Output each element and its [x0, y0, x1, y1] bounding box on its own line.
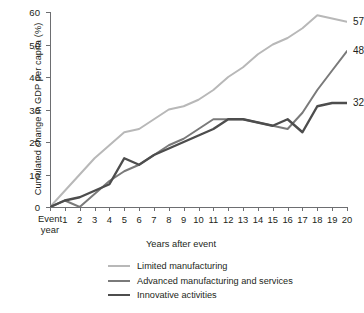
x-tick	[243, 207, 244, 211]
plot-area: 0102030405060 Eventyear12345678910111213…	[50, 12, 347, 207]
x-tick-label: 18	[312, 214, 322, 225]
y-tick-label: 40	[29, 72, 40, 83]
legend-swatch	[108, 294, 130, 296]
x-tick	[199, 207, 200, 211]
x-tick	[228, 207, 229, 211]
y-tick-label: 30	[29, 104, 40, 115]
x-tick-label: 12	[223, 214, 233, 225]
x-tick-label: 14	[253, 214, 263, 225]
legend-swatch	[108, 265, 130, 267]
x-tick	[332, 207, 333, 211]
x-tick	[124, 207, 125, 211]
x-tick-label: 7	[151, 214, 156, 225]
x-tick-label: 9	[181, 214, 186, 225]
x-tick	[347, 207, 348, 211]
x-tick	[184, 207, 185, 211]
series-end-value: 57	[353, 16, 364, 27]
y-tick-label: 60	[29, 7, 40, 18]
x-tick	[80, 207, 81, 211]
x-tick-label: 3	[92, 214, 97, 225]
x-tick	[288, 207, 289, 211]
legend-swatch	[108, 280, 130, 282]
x-tick	[65, 207, 66, 211]
chart-legend: Limited manufacturingAdvanced manufactur…	[108, 261, 293, 300]
x-tick	[258, 207, 259, 211]
x-tick-label: 1	[62, 214, 67, 225]
series-line	[50, 51, 347, 207]
legend-label: Advanced manufacturing and services	[137, 276, 293, 286]
legend-item[interactable]: Innovative activities	[108, 290, 293, 300]
x-tick-label: 11	[208, 214, 218, 225]
x-tick	[95, 207, 96, 211]
x-tick-label: 8	[166, 214, 171, 225]
series-end-value: 32	[353, 97, 364, 108]
x-tick	[302, 207, 303, 211]
legend-item[interactable]: Advanced manufacturing and services	[108, 276, 293, 286]
x-tick	[50, 207, 51, 211]
y-tick-label: 10	[29, 169, 40, 180]
legend-label: Limited manufacturing	[137, 261, 227, 271]
x-tick	[154, 207, 155, 211]
series-lines	[50, 12, 347, 207]
x-tick-label: 4	[107, 214, 112, 225]
x-tick	[109, 207, 110, 211]
series-end-value: 48	[353, 45, 364, 56]
x-tick-label: 13	[238, 214, 248, 225]
y-tick-label: 50	[29, 39, 40, 50]
y-tick-label: 0	[35, 202, 40, 213]
x-axis-title: Years after event	[0, 239, 362, 249]
x-tick-label: 2	[77, 214, 82, 225]
x-tick-label: 17	[297, 214, 307, 225]
series-line	[50, 103, 347, 207]
x-tick-label: 6	[136, 214, 141, 225]
x-tick-label: 16	[282, 214, 292, 225]
x-tick-label: 15	[268, 214, 278, 225]
x-tick	[273, 207, 274, 211]
legend-label: Innovative activities	[137, 290, 217, 300]
x-tick	[169, 207, 170, 211]
x-tick-label: Eventyear	[38, 214, 62, 235]
x-tick	[139, 207, 140, 211]
x-tick-label: 20	[342, 214, 352, 225]
x-tick-label: 10	[193, 214, 203, 225]
y-tick-label: 20	[29, 137, 40, 148]
x-tick	[317, 207, 318, 211]
x-tick-label: 5	[122, 214, 127, 225]
legend-item[interactable]: Limited manufacturing	[108, 261, 293, 271]
x-tick-label: 19	[327, 214, 337, 225]
x-tick	[213, 207, 214, 211]
